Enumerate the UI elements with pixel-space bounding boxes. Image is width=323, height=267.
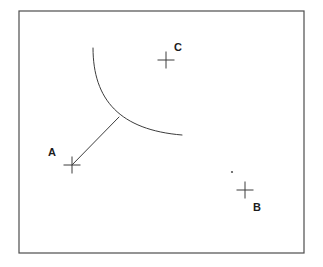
- curve-arc: [93, 48, 182, 135]
- point-label-b: B: [253, 201, 261, 213]
- point-label-c: C: [174, 41, 182, 53]
- point-label-a: A: [48, 146, 56, 158]
- unlabeled-dot-marker: [231, 171, 233, 173]
- point-labels: ABC: [48, 41, 261, 213]
- point-marker-c: [158, 52, 175, 69]
- segment-a-to-arc: [72, 117, 119, 165]
- figure-canvas: ABC: [0, 0, 323, 267]
- geometry-diagram: ABC: [0, 0, 323, 267]
- point-markers: [64, 52, 254, 199]
- point-marker-b: [237, 182, 254, 199]
